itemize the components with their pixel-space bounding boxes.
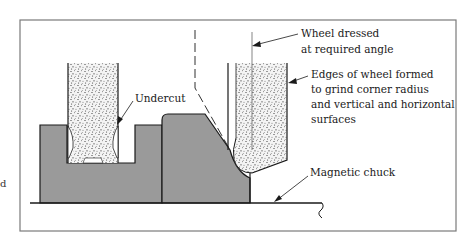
label-wheel-dressed-2: at required angle bbox=[301, 43, 394, 56]
margin-text-fragment: d bbox=[0, 178, 6, 189]
label-magnetic-chuck: Magnetic chuck bbox=[310, 166, 395, 179]
label-edges-2: to grind corner radius bbox=[311, 83, 429, 96]
leader-edges bbox=[288, 76, 308, 84]
break-mark bbox=[319, 203, 323, 218]
left-grinding-wheel bbox=[68, 63, 118, 163]
right-grinding-wheel bbox=[233, 63, 287, 173]
wheel-bottom-relief bbox=[83, 158, 103, 163]
label-edges-1: Edges of wheel formed bbox=[311, 68, 434, 81]
leader-undercut bbox=[117, 101, 133, 125]
label-edges-3: and vertical and horizontal bbox=[311, 98, 455, 111]
label-edges-4: surfaces bbox=[311, 113, 356, 126]
diagram-canvas: Wheel dressed at required angle Edges of… bbox=[0, 0, 470, 235]
label-undercut: Undercut bbox=[135, 92, 185, 105]
leader-magnetic-chuck bbox=[274, 176, 308, 202]
grinding-diagram bbox=[0, 0, 470, 235]
leader-wheel-dressed bbox=[252, 34, 298, 47]
label-wheel-dressed-1: Wheel dressed bbox=[301, 27, 379, 40]
